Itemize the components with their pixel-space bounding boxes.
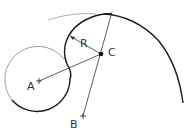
label-b: B (70, 118, 78, 131)
construction-diagram: A B C R (0, 0, 195, 135)
cross-b-icon (80, 113, 86, 119)
diagram-canvas: A B C R (0, 0, 195, 135)
radius-arrowhead-icon (70, 36, 75, 40)
line-b-c (83, 12, 112, 116)
circle-a-bold-arc (12, 68, 71, 111)
label-r: R (80, 37, 88, 50)
center-c-dot (99, 52, 104, 57)
large-arc-b (104, 14, 183, 103)
label-c: C (108, 46, 116, 59)
label-a: A (27, 80, 35, 93)
cross-a-icon (36, 78, 42, 84)
